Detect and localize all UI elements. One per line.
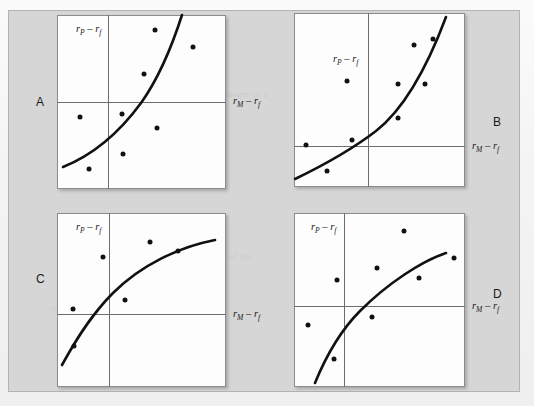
- panel-a: rP – rf: [57, 15, 226, 189]
- y-axis-label-a: rP – rf: [76, 23, 101, 37]
- data-point: [100, 255, 105, 260]
- data-point: [350, 137, 355, 142]
- data-point: [325, 169, 330, 174]
- data-point: [345, 78, 350, 83]
- panel-b: rP – rf: [294, 13, 465, 187]
- figure-page: the market was the a manager of a the re…: [0, 0, 534, 406]
- panel-label-c: C: [36, 272, 45, 286]
- panel-label-b: B: [493, 115, 501, 129]
- y-axis-label-b: rP – rf: [333, 53, 358, 67]
- data-point: [411, 43, 416, 48]
- data-point: [77, 114, 82, 119]
- panel-label-d: D: [493, 287, 502, 301]
- data-point: [190, 45, 195, 50]
- data-point: [430, 36, 435, 41]
- data-point: [122, 297, 127, 302]
- curve-a: [57, 15, 226, 189]
- data-point: [305, 323, 310, 328]
- data-point: [303, 142, 308, 147]
- x-axis-label-c: rM – rf: [233, 308, 260, 322]
- data-point: [374, 265, 379, 270]
- data-point: [155, 125, 160, 130]
- data-point: [70, 306, 75, 311]
- data-point: [72, 343, 77, 348]
- data-point: [141, 72, 146, 77]
- x-axis-label-d: rM – rf: [472, 300, 499, 314]
- y-axis-label-d: rP – rf: [311, 221, 336, 235]
- y-axis-label-c: rP – rf: [76, 221, 101, 235]
- data-point: [331, 356, 336, 361]
- panel-d: rP – rf: [294, 213, 465, 387]
- data-point: [422, 82, 427, 87]
- data-point: [86, 166, 91, 171]
- curve-b: [294, 13, 465, 187]
- curve-c: [57, 213, 226, 387]
- curve-d: [294, 213, 465, 387]
- data-point: [176, 249, 181, 254]
- data-point: [121, 152, 126, 157]
- data-point: [401, 228, 406, 233]
- data-point: [119, 111, 124, 116]
- data-point: [335, 278, 340, 283]
- x-axis-label-b: rM – rf: [472, 140, 499, 154]
- data-point: [370, 315, 375, 320]
- data-point: [396, 115, 401, 120]
- panel-c: rP – rf: [57, 213, 226, 387]
- data-point: [451, 256, 456, 261]
- data-point: [147, 240, 152, 245]
- panel-label-a: A: [36, 95, 44, 109]
- data-point: [395, 82, 400, 87]
- data-point: [417, 275, 422, 280]
- data-point: [153, 28, 158, 33]
- x-axis-label-a: rM – rf: [233, 95, 260, 109]
